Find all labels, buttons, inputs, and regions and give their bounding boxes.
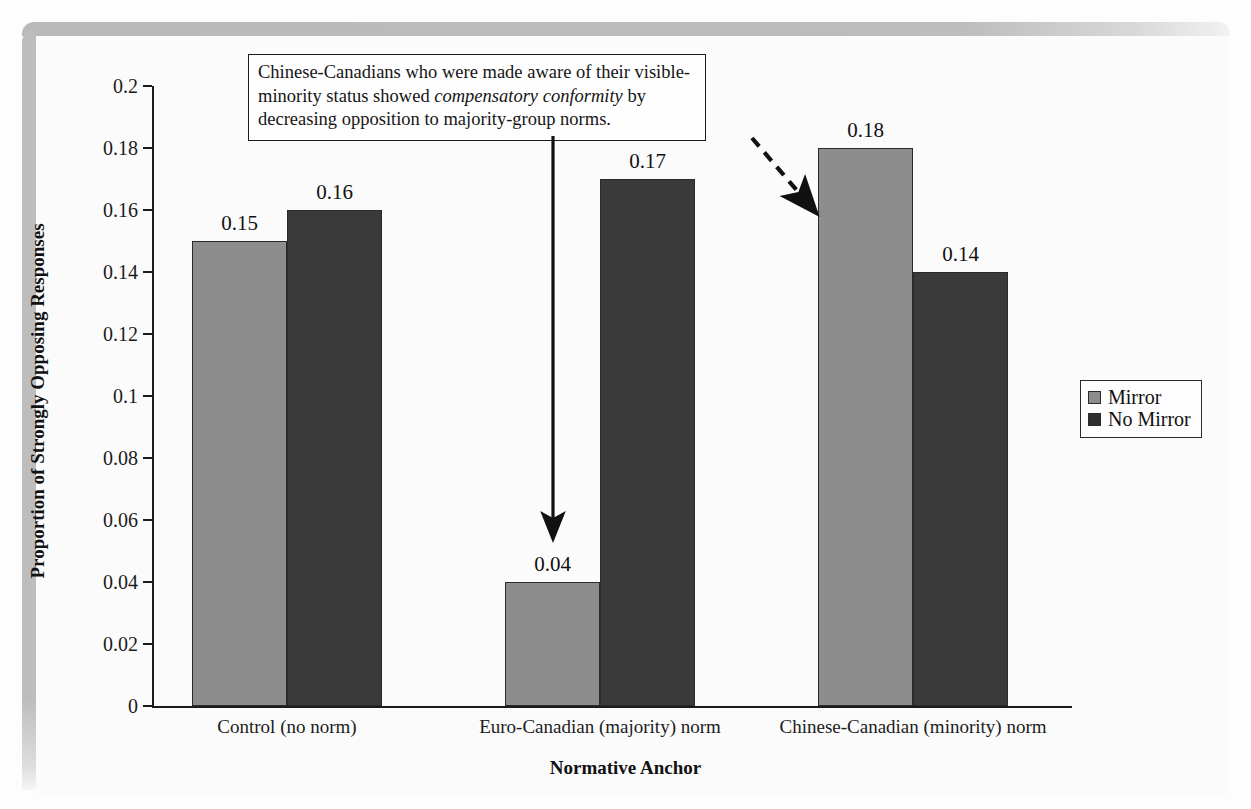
y-axis-tick — [143, 519, 152, 521]
bar-value-label: 0.16 — [287, 182, 382, 203]
y-axis-tick-label: 0.06 — [76, 510, 138, 530]
y-axis-tick — [143, 457, 152, 459]
x-axis-title: Normative Anchor — [0, 757, 1251, 779]
x-axis-category-label: Euro-Canadian (majority) norm — [430, 716, 770, 738]
y-axis-tick-label: 0.2 — [76, 76, 138, 96]
y-axis-tick — [143, 581, 152, 583]
legend-item-label: No Mirror — [1108, 408, 1191, 430]
y-axis-tick-label: 0.04 — [76, 572, 138, 592]
y-axis-tick — [143, 271, 152, 273]
bar-no-mirror — [600, 179, 695, 706]
bar-mirror — [192, 241, 287, 706]
x-axis-line — [152, 706, 1072, 708]
x-axis-category-label: Chinese-Canadian (minority) norm — [743, 716, 1083, 738]
y-axis-tick — [143, 209, 152, 211]
bar-no-mirror — [287, 210, 382, 706]
bar-no-mirror — [913, 272, 1008, 706]
y-axis-title: Proportion of Strongly Opposing Response… — [27, 141, 49, 661]
annotation-emphasis: compensatory conformity — [434, 86, 623, 106]
y-axis-tick — [143, 333, 152, 335]
y-axis-tick — [143, 643, 152, 645]
y-axis-tick-label: 0.14 — [76, 262, 138, 282]
bar-value-label: 0.15 — [192, 213, 287, 234]
bar-mirror — [505, 582, 600, 706]
y-axis-tick — [143, 147, 152, 149]
y-axis-tick-label: 0.08 — [76, 448, 138, 468]
y-axis-tick-label: 0 — [76, 696, 138, 716]
y-axis-tick-label: 0.18 — [76, 138, 138, 158]
legend: MirrorNo Mirror — [1080, 380, 1202, 438]
y-axis-tick-label: 0.1 — [76, 386, 138, 406]
y-axis-tick — [143, 85, 152, 87]
bar-mirror — [818, 148, 913, 706]
legend-swatch-icon — [1088, 391, 1101, 404]
y-axis-tick — [143, 705, 152, 707]
dashed-diagonal-arrow — [752, 138, 806, 201]
bar-value-label: 0.04 — [505, 554, 600, 575]
y-axis-tick-label: 0.12 — [76, 324, 138, 344]
legend-swatch-icon — [1088, 413, 1101, 426]
bar-value-label: 0.18 — [818, 120, 913, 141]
y-axis-line — [152, 86, 154, 707]
y-axis-tick-label: 0.02 — [76, 634, 138, 654]
x-axis-category-label: Control (no norm) — [117, 716, 457, 738]
legend-item-label: Mirror — [1108, 386, 1161, 408]
annotation-callout: Chinese-Canadians who were made aware of… — [248, 54, 706, 141]
legend-item-mirror[interactable]: Mirror — [1088, 386, 1191, 408]
y-axis-tick — [143, 395, 152, 397]
y-axis-tick-label: 0.16 — [76, 200, 138, 220]
bar-chart: 00.020.040.060.080.10.120.140.160.180.2 … — [0, 0, 1251, 809]
bar-value-label: 0.17 — [600, 151, 695, 172]
legend-item-no-mirror[interactable]: No Mirror — [1088, 408, 1191, 430]
bar-value-label: 0.14 — [913, 244, 1008, 265]
